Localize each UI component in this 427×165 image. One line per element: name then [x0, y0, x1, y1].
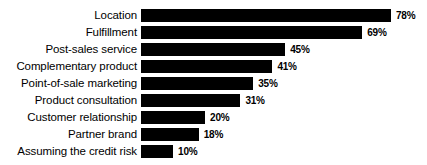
chart-row: Post-sales service 45%: [0, 43, 427, 56]
value-label: 31%: [245, 94, 264, 107]
value-label: 69%: [367, 26, 386, 39]
bar-point-of-sale-marketing: [141, 77, 253, 90]
value-label: 20%: [210, 111, 229, 124]
bar-track: 18%: [141, 128, 427, 141]
chart-row: Complementary product 41%: [0, 60, 427, 73]
chart-row: Partner brand 18%: [0, 128, 427, 141]
value-label: 10%: [178, 145, 197, 158]
chart-row: Fulfillment 69%: [0, 26, 427, 39]
value-label: 18%: [204, 128, 223, 141]
bar-track: 10%: [141, 145, 427, 158]
chart-row: Product consultation 31%: [0, 94, 427, 107]
bar-track: 45%: [141, 43, 427, 56]
category-label: Fulfillment: [0, 26, 141, 39]
bar-track: 69%: [141, 26, 427, 39]
bar-fulfillment: [141, 26, 362, 39]
value-label: 41%: [277, 60, 296, 73]
category-label: Point-of-sale marketing: [0, 77, 141, 90]
bar-partner-brand: [141, 128, 199, 141]
category-label: Product consultation: [0, 94, 141, 107]
category-label: Post-sales service: [0, 43, 141, 56]
value-label: 35%: [258, 77, 277, 90]
category-label: Partner brand: [0, 128, 141, 141]
value-label: 45%: [290, 43, 309, 56]
bar-post-sales-service: [141, 43, 285, 56]
category-label: Assuming the credit risk: [0, 145, 141, 158]
bar-customer-relationship: [141, 111, 205, 124]
chart-row: Location 78%: [0, 9, 427, 22]
chart-plot-area: Location 78% Fulfillment 69% Post-sales …: [0, 0, 427, 165]
category-label: Customer relationship: [0, 111, 141, 124]
bar-track: 20%: [141, 111, 427, 124]
bar-chart: Location 78% Fulfillment 69% Post-sales …: [0, 0, 427, 165]
bar-assuming-the-credit-risk: [141, 145, 173, 158]
bar-track: 78%: [141, 9, 427, 22]
chart-row: Assuming the credit risk 10%: [0, 145, 427, 158]
category-label: Complementary product: [0, 60, 141, 73]
bar-track: 31%: [141, 94, 427, 107]
bar-product-consultation: [141, 94, 240, 107]
bar-track: 41%: [141, 60, 427, 73]
bar-complementary-product: [141, 60, 272, 73]
chart-row: Customer relationship 20%: [0, 111, 427, 124]
value-label: 78%: [396, 9, 415, 22]
bar-track: 35%: [141, 77, 427, 90]
category-label: Location: [0, 9, 141, 22]
chart-row: Point-of-sale marketing 35%: [0, 77, 427, 90]
bar-location: [141, 9, 391, 22]
